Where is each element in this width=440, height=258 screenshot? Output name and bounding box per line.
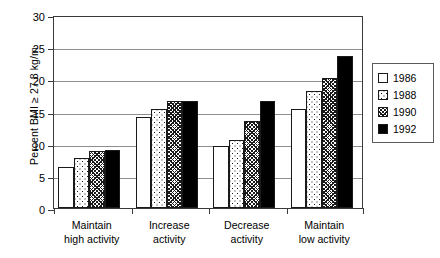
legend-swatch-icon [378, 73, 388, 83]
y-axis-label: 5 [39, 172, 45, 184]
y-axis-tick [48, 49, 54, 50]
bar-1992-1[interactable] [105, 150, 121, 208]
legend-swatch-icon [378, 90, 388, 100]
bar-1986-1[interactable] [58, 167, 74, 208]
y-axis-label: 15 [33, 108, 45, 120]
legend-item-label: 1986 [393, 72, 416, 84]
bar-1986-2[interactable] [136, 117, 152, 208]
x-axis-label: Decreaseactivity [208, 219, 286, 246]
x-axis-tick [132, 208, 133, 214]
bar-group [291, 17, 353, 208]
y-axis-tick [48, 17, 54, 18]
x-axis-tick [54, 208, 55, 214]
legend: 1986198819901992 [372, 63, 434, 143]
bar-group [213, 17, 275, 208]
y-axis-tick [48, 210, 54, 211]
legend-swatch-icon [378, 107, 388, 117]
legend-item-label: 1988 [393, 89, 416, 101]
legend-swatch-icon [378, 124, 388, 134]
legend-item-label: 1992 [393, 123, 416, 135]
bar-1990-3[interactable] [244, 121, 260, 208]
bar-1992-4[interactable] [337, 56, 353, 208]
legend-item-1990[interactable]: 1990 [378, 103, 429, 120]
x-axis-tick [209, 208, 210, 214]
y-axis-tick [48, 114, 54, 115]
bar-chart: Percent BMI ≥ 27.8 kg/m 051015202530 198… [0, 0, 440, 258]
bar-1990-4[interactable] [322, 78, 338, 208]
y-axis-label: 30 [33, 11, 45, 23]
bar-1988-3[interactable] [229, 140, 245, 208]
y-axis-tick [48, 81, 54, 82]
bar-1992-3[interactable] [260, 101, 276, 208]
x-axis-tick [363, 208, 364, 214]
legend-item-1986[interactable]: 1986 [378, 69, 429, 86]
bar-1990-2[interactable] [167, 101, 183, 208]
legend-item-1988[interactable]: 1988 [378, 86, 429, 103]
x-axis-tick [287, 208, 288, 214]
bar-1988-2[interactable] [151, 109, 167, 208]
bar-group [136, 17, 198, 208]
x-axis-label: Maintainlow activity [286, 219, 364, 246]
y-axis-label: 25 [33, 43, 45, 55]
y-axis-tick [48, 178, 54, 179]
legend-item-1992[interactable]: 1992 [378, 120, 429, 137]
bar-1986-3[interactable] [213, 146, 229, 208]
y-axis-label: 10 [33, 140, 45, 152]
bar-1986-4[interactable] [291, 109, 307, 208]
y-axis-tick [48, 146, 54, 147]
y-axis-label: 0 [39, 204, 45, 216]
legend-item-label: 1990 [393, 106, 416, 118]
bar-group [58, 17, 120, 208]
plot-area: 051015202530 [53, 16, 363, 209]
bar-1992-2[interactable] [182, 101, 198, 208]
plot-inner [54, 17, 362, 208]
bar-1990-1[interactable] [89, 151, 105, 208]
y-axis-label: 20 [33, 75, 45, 87]
x-axis-label: Maintainhigh activity [53, 219, 131, 246]
bar-1988-1[interactable] [74, 158, 90, 208]
x-axis-label: Increaseactivity [131, 219, 209, 246]
bar-1988-4[interactable] [306, 91, 322, 208]
